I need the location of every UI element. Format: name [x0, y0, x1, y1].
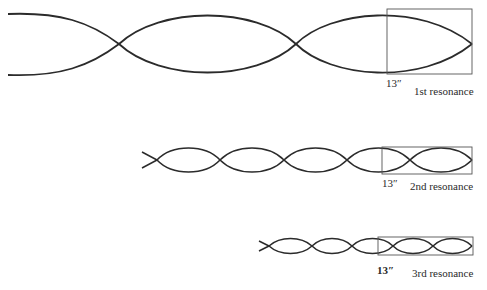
dimension-label-3: 13″	[377, 265, 394, 276]
row-2nd-resonance	[142, 147, 472, 174]
resonance-label-1: 1st resonance	[414, 86, 474, 97]
wave-lower-3	[259, 246, 472, 254]
wave-upper-1	[8, 14, 472, 44]
row-3rd-resonance	[259, 237, 473, 255]
resonance-diagram	[0, 0, 487, 290]
length-box-1	[387, 9, 472, 74]
resonance-label-2: 2nd resonance	[410, 181, 473, 192]
wave-upper-2	[142, 148, 472, 160]
dimension-label-1: 13″	[386, 78, 402, 89]
resonance-label-3: 3rd resonance	[412, 268, 473, 279]
row-1st-resonance	[8, 9, 472, 75]
dimension-label-2: 13″	[382, 178, 398, 189]
wave-upper-3	[259, 239, 472, 247]
wave-lower-2	[142, 160, 472, 172]
wave-lower-1	[8, 44, 472, 75]
